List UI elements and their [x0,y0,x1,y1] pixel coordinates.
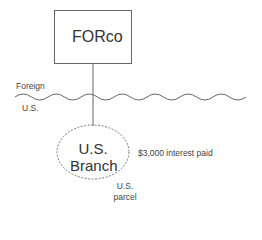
payment-label: $3,000 interest paid [138,149,213,158]
us-label: U.S. [22,104,39,113]
branch-label: U.S. Branch [70,140,116,175]
parcel-label: U.S. parcel [112,181,138,202]
foreign-label: Foreign [16,82,45,91]
parcel-label-line2: parcel [112,192,138,203]
branch-label-line2: Branch [70,157,116,174]
parcel-label-line1: U.S. [112,181,138,192]
forco-label: FORco [72,29,123,45]
border-wave [15,94,246,100]
branch-label-line1: U.S. [70,140,116,157]
